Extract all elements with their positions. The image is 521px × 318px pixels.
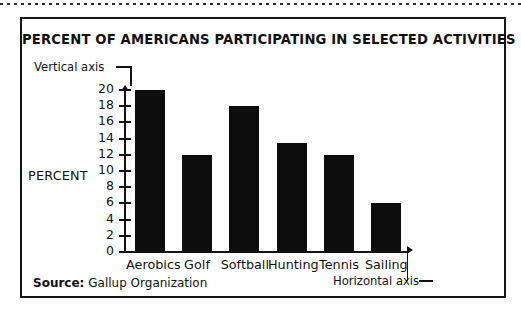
x-axis-label-aerobics: Aerobics: [126, 257, 173, 272]
y-axis-tick-label: 18: [88, 99, 114, 112]
y-axis-tick-label: 0: [88, 245, 114, 258]
bar-aerobics: [135, 90, 165, 252]
bar-slot: [277, 79, 307, 252]
source-value: Gallup Organization: [88, 276, 207, 290]
bar-softball: [229, 106, 259, 252]
y-axis-tick-label: 8: [88, 180, 114, 193]
y-axis-tick-label: 16: [88, 115, 114, 128]
source-label: Source:: [33, 276, 84, 290]
y-axis-tick-label: 2: [88, 229, 114, 242]
bar-golf: [182, 155, 212, 252]
source-note: Source: Gallup Organization: [33, 276, 207, 290]
y-axis-tick-label: 14: [88, 132, 114, 145]
horizontal-axis-annotation-leader-horizontal: [419, 280, 433, 282]
bar-slot: [324, 79, 354, 252]
x-axis-label-tennis: Tennis: [315, 257, 362, 272]
bar-slot: [371, 79, 401, 252]
x-axis-label-softball: Softball: [221, 257, 268, 272]
x-axis-label-golf: Golf: [173, 257, 220, 272]
y-axis-title: PERCENT: [28, 168, 88, 183]
page-top-dotted-rule: [0, 3, 521, 5]
bar-slot: [135, 79, 165, 252]
bar-slot: [182, 79, 212, 252]
y-axis-tick-label: 4: [88, 213, 114, 226]
bar-series: [126, 79, 410, 252]
figure-page: PERCENT OF AMERICANS PARTICIPATING IN SE…: [0, 0, 521, 318]
y-axis-tick-label: 10: [88, 164, 114, 177]
y-axis-tick-label: 6: [88, 196, 114, 209]
horizontal-axis-annotation-label: Horizontal axis: [333, 274, 419, 288]
x-axis-label-sailing: Sailing: [363, 257, 410, 272]
figure-frame: PERCENT OF AMERICANS PARTICIPATING IN SE…: [20, 17, 506, 298]
plot-area: Vertical axis PERCENT 02468101214161820 …: [22, 19, 508, 300]
bar-slot: [229, 79, 259, 252]
bar-hunting: [277, 143, 307, 252]
bar-tennis: [324, 155, 354, 252]
vertical-axis-annotation-label: Vertical axis: [34, 60, 104, 74]
x-axis-label-hunting: Hunting: [268, 257, 315, 272]
bar-sailing: [371, 203, 401, 252]
y-axis-tick-label: 20: [88, 83, 114, 96]
y-axis-tick-label: 12: [88, 148, 114, 161]
